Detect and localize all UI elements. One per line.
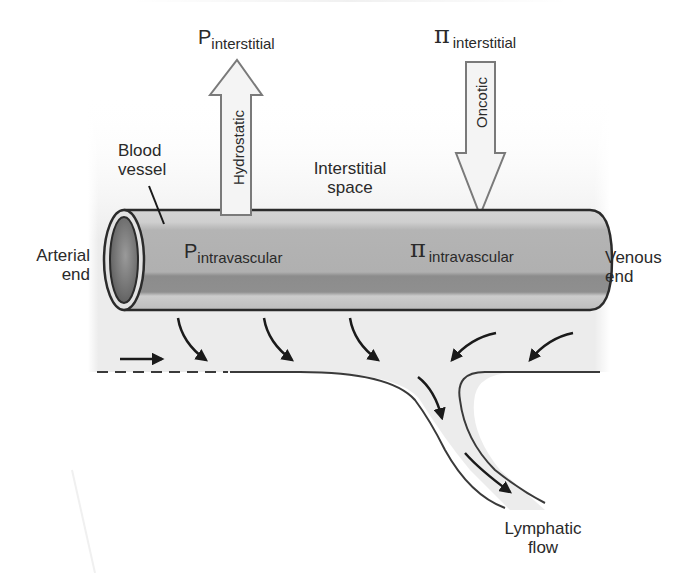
p-interstitial-subscript: interstitial <box>211 35 274 52</box>
p-intravascular-subscript: intravascular <box>197 249 282 266</box>
arterial-end-label-line2: end <box>10 266 90 285</box>
lymphatic-wall-right <box>459 372 600 503</box>
venous-end-label-line1: Venous <box>605 249 662 268</box>
pi-interstitial-subscript: interstitial <box>453 34 516 51</box>
blood-vessel-label: Blood vessel <box>118 142 166 179</box>
interstitial-space-label-line1: Interstitial <box>300 160 400 179</box>
scan-artifact <box>72 470 95 573</box>
lymphatic-flow-label-line2: flow <box>493 539 593 558</box>
pi-interstitial-symbol: π <box>434 21 450 49</box>
p-intravascular-label: Pintravascular <box>184 240 282 267</box>
venous-end-label: Venous end <box>605 249 662 286</box>
arterial-end-label-line1: Arterial <box>10 247 90 266</box>
p-interstitial-label: Pinterstitial <box>198 26 275 53</box>
blood-vessel-label-line2: vessel <box>118 161 166 180</box>
pi-intravascular-label: πintravascular <box>410 236 514 266</box>
arterial-end-label: Arterial end <box>10 247 90 284</box>
oncotic-label: Oncotic <box>473 73 490 133</box>
diagram-graphics <box>0 0 692 573</box>
hydrostatic-arrow-base <box>221 208 251 215</box>
venous-end-label-line2: end <box>605 268 662 287</box>
blood-vessel-label-line1: Blood <box>118 142 166 161</box>
hydrostatic-label: Hydrostatic <box>230 103 247 193</box>
p-interstitial-symbol: P <box>198 26 211 48</box>
lymphatic-flow-label-line1: Lymphatic <box>493 520 593 539</box>
starling-forces-diagram: Pinterstitial πinterstitial Hydrostatic … <box>0 0 692 573</box>
pi-intravascular-symbol: π <box>410 235 426 263</box>
lymphatic-flow-label: Lymphatic flow <box>493 520 593 557</box>
interstitial-space-label-line2: space <box>300 179 400 198</box>
blood-vessel <box>104 210 612 310</box>
pi-interstitial-label: πinterstitial <box>434 22 516 52</box>
interstitial-space-label: Interstitial space <box>300 160 400 197</box>
p-intravascular-symbol: P <box>184 240 197 262</box>
pi-intravascular-subscript: intravascular <box>429 248 514 265</box>
lymphatic-vessel <box>97 372 600 508</box>
vessel-lumen <box>110 217 138 303</box>
